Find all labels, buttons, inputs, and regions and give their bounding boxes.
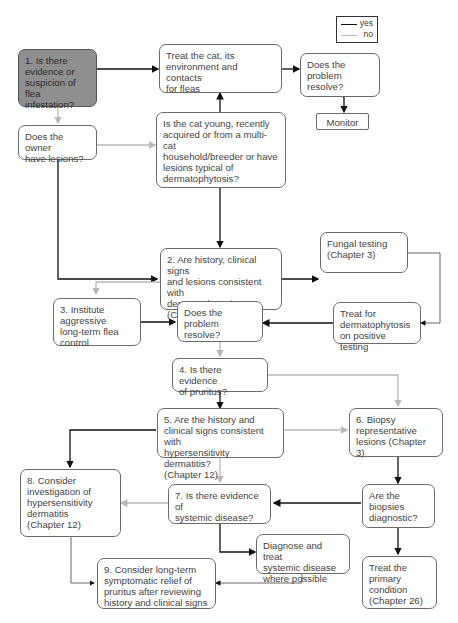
node-9-symptomatic-relief[interactable]: 9. Consider long-term symptomatic relief… xyxy=(97,558,216,609)
node-3-flea-control[interactable]: 3. Institute aggressive long-term flea c… xyxy=(53,298,141,346)
node-fungal-testing[interactable]: Fungal testing (Chapter 3) xyxy=(320,232,408,273)
edge-n7-diag xyxy=(220,524,255,552)
legend: yes no xyxy=(336,16,378,43)
node-treat-dermatophytosis[interactable]: Treat for dermatophytosis on positive te… xyxy=(333,302,421,344)
edge-n5-n8 xyxy=(70,430,156,467)
node-treat-primary[interactable]: Treat the primary condition (Chapter 26) xyxy=(362,556,437,609)
node-4-pruritus[interactable]: 4. Is there evidence of pruritus? xyxy=(172,358,268,392)
node-8-investigate-hypersensitivity[interactable]: 8. Consider investigation of hypersensit… xyxy=(20,469,121,537)
node-owner-lesions[interactable]: Does the owner have lesions? xyxy=(18,125,97,160)
edge-owner-n2 xyxy=(58,160,157,279)
legend-no-swatch xyxy=(341,35,357,36)
node-resolve-mid[interactable]: Does the problem resolve? xyxy=(177,301,263,342)
node-diagnose-systemic[interactable]: Diagnose and treat systemic disease wher… xyxy=(256,534,350,574)
legend-no-label: no xyxy=(364,29,373,39)
node-7-systemic-disease[interactable]: 7. Is there evidence of systemic disease… xyxy=(168,484,271,524)
node-resolve-top[interactable]: Does the problem resolve? xyxy=(300,53,380,97)
legend-yes-label: yes xyxy=(360,18,373,28)
node-monitor[interactable]: Monitor xyxy=(316,113,369,130)
edge-resolve-monitor xyxy=(343,97,344,112)
edge-n8-n9 xyxy=(71,537,94,583)
legend-yes-swatch xyxy=(341,24,357,25)
node-6-biopsy[interactable]: 6. Biopsy representative lesions (Chapte… xyxy=(349,408,443,457)
node-biopsies-diagnostic[interactable]: Are the biopsies diagnostic? xyxy=(362,484,435,528)
node-1-flea-infestation[interactable]: 1. Is there evidence or suspicion of fle… xyxy=(18,49,97,107)
edge-n4-n6 xyxy=(268,375,398,406)
node-treat-fleas[interactable]: Treat the cat, its environment and conta… xyxy=(159,44,282,93)
node-cat-young[interactable]: Is the cat young, recently acquired or f… xyxy=(156,112,286,188)
node-5-hypersensitivity[interactable]: 5. Are the history and clinical signs co… xyxy=(157,408,284,458)
